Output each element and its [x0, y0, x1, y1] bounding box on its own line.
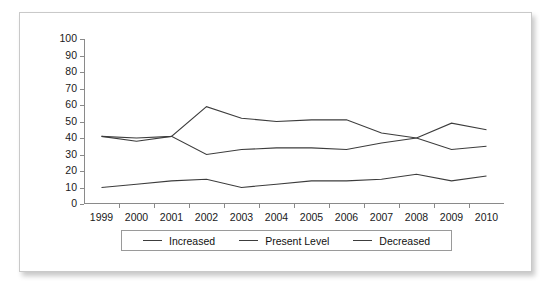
- legend-line-icon: [143, 240, 162, 241]
- legend-item-label: Present Level: [265, 235, 329, 247]
- x-axis-tick-label: 2008: [405, 211, 428, 224]
- x-axis-tick-label: 2003: [230, 211, 253, 224]
- series-lines: [84, 39, 504, 204]
- legend-line-icon: [353, 240, 372, 241]
- x-axis-tick-mark: [224, 204, 225, 208]
- y-axis-tick-label: 60: [65, 98, 77, 111]
- y-axis-tick-label: 70: [65, 82, 77, 95]
- legend-item-label: Increased: [169, 235, 215, 247]
- x-axis-tick-mark: [259, 204, 260, 208]
- x-axis-tick-label: 2002: [195, 211, 218, 224]
- chart-panel: 1009080706050403020100 19992000200120022…: [19, 12, 532, 272]
- legend-item-decreased[interactable]: Decreased: [353, 235, 430, 247]
- x-axis-tick-mark: [364, 204, 365, 208]
- chart-legend: IncreasedPresent LevelDecreased: [121, 230, 452, 251]
- plot-area: 1009080706050403020100 19992000200120022…: [84, 39, 504, 204]
- y-axis-tick-label: 30: [65, 148, 77, 161]
- x-axis-tick-label: 2000: [125, 211, 148, 224]
- y-axis-tick-label: 0: [71, 197, 77, 210]
- series-line-present-level: [102, 107, 487, 150]
- y-axis-tick-label: 20: [65, 164, 77, 177]
- legend-line-icon: [239, 240, 258, 241]
- x-axis-tick-label: 2005: [300, 211, 323, 224]
- legend-item-label: Decreased: [379, 235, 430, 247]
- series-line-increased: [102, 174, 487, 187]
- y-axis-tick-label: 90: [65, 49, 77, 62]
- x-axis-tick-mark: [469, 204, 470, 208]
- y-axis-tick-mark: [80, 204, 84, 205]
- y-axis-tick-label: 80: [65, 65, 77, 78]
- y-axis-tick-label: 40: [65, 131, 77, 144]
- x-axis-tick-mark: [399, 204, 400, 208]
- x-axis-tick-label: 2010: [475, 211, 498, 224]
- legend-item-present-level[interactable]: Present Level: [239, 235, 329, 247]
- x-axis-tick-mark: [329, 204, 330, 208]
- x-axis-tick-label: 2006: [335, 211, 358, 224]
- x-axis-tick-label: 2007: [370, 211, 393, 224]
- y-axis-tick-label: 100: [59, 32, 77, 45]
- x-axis-tick-mark: [294, 204, 295, 208]
- screenshot-root: 1009080706050403020100 19992000200120022…: [0, 0, 553, 288]
- x-axis-tick-mark: [154, 204, 155, 208]
- x-axis-tick-label: 2004: [265, 211, 288, 224]
- y-axis-tick-label: 10: [65, 181, 77, 194]
- series-line-decreased: [102, 123, 487, 154]
- x-axis-tick-label: 1999: [90, 211, 113, 224]
- x-axis-tick-mark: [119, 204, 120, 208]
- x-axis-tick-mark: [434, 204, 435, 208]
- x-axis-tick-label: 2009: [440, 211, 463, 224]
- y-axis-tick-label: 50: [65, 115, 77, 128]
- x-axis-tick-label: 2001: [160, 211, 183, 224]
- x-axis-tick-mark: [189, 204, 190, 208]
- legend-item-increased[interactable]: Increased: [143, 235, 215, 247]
